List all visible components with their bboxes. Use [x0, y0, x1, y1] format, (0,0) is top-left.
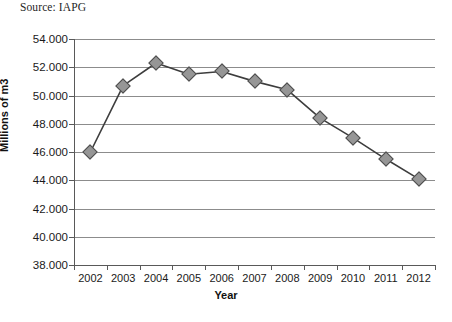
plot-area — [74, 39, 435, 265]
y-tick-label: 42.000 — [0, 203, 68, 215]
y-tick-label: 40.000 — [0, 231, 68, 243]
y-tick-label: 38.000 — [0, 259, 68, 271]
x-tick-label: 2010 — [341, 272, 365, 284]
x-tick-mark — [402, 265, 403, 270]
y-tick-label: 52.000 — [0, 61, 68, 73]
x-tick-label: 2004 — [144, 272, 168, 284]
x-tick-label: 2006 — [209, 272, 233, 284]
x-tick-label: 2005 — [177, 272, 201, 284]
x-tick-mark — [172, 265, 173, 270]
x-tick-label: 2008 — [275, 272, 299, 284]
x-tick-mark — [140, 265, 141, 270]
x-tick-label: 2012 — [406, 272, 430, 284]
y-tick-label: 54.000 — [0, 33, 68, 45]
source-note: Source: IAPG — [20, 1, 86, 13]
x-tick-mark — [205, 265, 206, 270]
x-tick-mark — [337, 265, 338, 270]
chart-figure: Source: IAPG Millions of m3 54.00052.000… — [0, 0, 452, 322]
x-tick-mark — [107, 265, 108, 270]
x-axis-title: Year — [0, 289, 452, 301]
x-tick-mark — [238, 265, 239, 270]
x-tick-label: 2011 — [374, 272, 398, 284]
x-axis-line — [74, 265, 435, 266]
x-tick-mark — [304, 265, 305, 270]
y-tick-label: 48.000 — [0, 118, 68, 130]
x-tick-label: 2007 — [242, 272, 266, 284]
x-tick-mark — [74, 265, 75, 270]
x-tick-mark — [435, 265, 436, 270]
x-tick-mark — [369, 265, 370, 270]
y-tick-label: 46.000 — [0, 146, 68, 158]
y-tick-label: 44.000 — [0, 174, 68, 186]
x-tick-label: 2002 — [78, 272, 102, 284]
y-tick-label: 50.000 — [0, 90, 68, 102]
x-tick-mark — [271, 265, 272, 270]
x-tick-label: 2009 — [308, 272, 332, 284]
x-tick-label: 2003 — [111, 272, 135, 284]
